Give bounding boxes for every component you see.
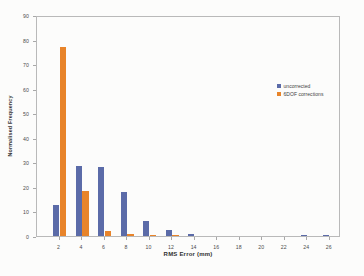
x-axis-tick-mark [149, 237, 150, 240]
bar [98, 167, 104, 236]
x-axis-tick-label: 6 [102, 244, 105, 250]
y-axis-tick-label: 60 [23, 87, 29, 93]
x-axis-tick-mark [59, 237, 60, 240]
chart-legend: uncorrected6DOF corrections [277, 82, 339, 98]
x-axis-tick-label: 2 [57, 244, 60, 250]
y-axis-tick-label: 10 [23, 209, 29, 215]
x-axis-tick-label: 16 [213, 244, 219, 250]
bar [121, 192, 127, 236]
y-axis-tick-label: 30 [23, 160, 29, 166]
x-axis-tick-mark [329, 237, 330, 240]
x-axis-tick-mark [216, 237, 217, 240]
x-axis-tick-mark [261, 237, 262, 240]
legend-item-label: uncorrected [284, 83, 311, 89]
y-axis-tick-label: 70 [23, 62, 29, 68]
bar [150, 235, 156, 236]
x-axis-tick-label: 24 [303, 244, 309, 250]
y-axis-tick-label: 20 [23, 185, 29, 191]
x-axis-tick-mark [194, 237, 195, 240]
legend-swatch-icon [277, 84, 281, 88]
x-axis-tick-mark [104, 237, 105, 240]
bar [60, 47, 66, 236]
legend-swatch-icon [277, 92, 281, 96]
bar [127, 234, 133, 236]
bar [82, 191, 88, 236]
bar [301, 235, 307, 236]
x-axis-tick-label: 22 [281, 244, 287, 250]
x-axis-tick-label: 12 [168, 244, 174, 250]
y-axis: 0102030405060708090 [0, 0, 36, 253]
x-axis-tick-mark [239, 237, 240, 240]
y-axis-tick-label: 40 [23, 136, 29, 142]
bar [143, 221, 149, 236]
x-axis-tick-mark [126, 237, 127, 240]
legend-item-label: 6DOF corrections [284, 91, 324, 97]
y-axis-title: Normalised Frequency [7, 95, 13, 156]
legend-item: 6DOF corrections [277, 90, 339, 97]
bar [53, 205, 59, 236]
x-axis-tick-label: 14 [191, 244, 197, 250]
x-axis-tick-label: 8 [125, 244, 128, 250]
x-axis-tick-label: 20 [258, 244, 264, 250]
y-axis-tick-label: 90 [23, 13, 29, 19]
chart-figure: 0102030405060708090 Normalised Frequency… [0, 0, 364, 276]
plot-area [36, 16, 340, 237]
bar [166, 230, 172, 236]
x-axis-tick-label: 26 [326, 244, 332, 250]
x-axis-tick-mark [81, 237, 82, 240]
y-axis-tick-label: 50 [23, 111, 29, 117]
x-axis-tick-label: 18 [236, 244, 242, 250]
x-axis-tick-mark [171, 237, 172, 240]
x-axis-tick-mark [306, 237, 307, 240]
x-axis-tick-label: 10 [146, 244, 152, 250]
bar [172, 235, 178, 236]
bar [105, 231, 111, 236]
x-axis-tick-mark [284, 237, 285, 240]
legend-item: uncorrected [277, 82, 339, 89]
bar [188, 234, 194, 236]
y-axis-tick-label: 0 [26, 234, 29, 240]
x-axis-tick-label: 4 [80, 244, 83, 250]
x-axis-title: RMS Error (mm) [164, 251, 213, 257]
bar [76, 166, 82, 236]
bar [323, 235, 329, 236]
bars-layer [37, 17, 339, 236]
y-axis-tick-label: 80 [23, 38, 29, 44]
